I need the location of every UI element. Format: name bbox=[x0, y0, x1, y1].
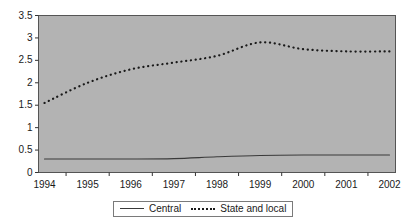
x-axis-tick-label: 1999 bbox=[240, 180, 280, 190]
x-axis-tick-label: 1996 bbox=[111, 180, 151, 190]
x-axis-tick-marks bbox=[66, 173, 368, 177]
x-axis-tick-label: 2000 bbox=[283, 180, 323, 190]
plot-area bbox=[39, 16, 396, 173]
y-axis-tick-marks bbox=[35, 16, 39, 173]
y-axis-tick-label: 0 bbox=[27, 168, 33, 178]
x-axis-tick-label: 1997 bbox=[154, 180, 194, 190]
x-axis-tick-label: 1998 bbox=[197, 180, 237, 190]
y-axis-tick-label: 1 bbox=[27, 123, 33, 133]
x-axis-tick-label: 1994 bbox=[25, 180, 65, 190]
legend-dotted-line-icon bbox=[191, 204, 215, 214]
y-axis-tick-label: 2.5 bbox=[19, 55, 33, 65]
x-axis-tick-label: 2002 bbox=[370, 180, 410, 190]
line-chart: 00.511.522.533.5 19941995199619971998199… bbox=[0, 0, 417, 223]
x-axis-tick-label: 2001 bbox=[326, 180, 366, 190]
legend-entry-state-and-local: State and local bbox=[191, 204, 286, 214]
legend-label-central: Central bbox=[149, 204, 181, 214]
y-axis-tick-label: 1.5 bbox=[19, 100, 33, 110]
chart-canvas bbox=[0, 0, 417, 223]
y-axis-tick-label: 3 bbox=[27, 33, 33, 43]
x-axis-tick-label: 1995 bbox=[68, 180, 108, 190]
y-axis-tick-label: 3.5 bbox=[19, 11, 33, 21]
y-axis-tick-label: 2 bbox=[27, 78, 33, 88]
chart-legend: Central State and local bbox=[113, 201, 293, 217]
legend-solid-line-icon bbox=[120, 204, 144, 214]
legend-label-state-and-local: State and local bbox=[220, 204, 286, 214]
y-axis-tick-label: 0.5 bbox=[19, 145, 33, 155]
legend-entry-central: Central bbox=[120, 204, 181, 214]
